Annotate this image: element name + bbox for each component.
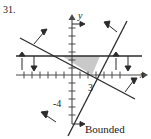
arrow-ascending-upper — [104, 21, 117, 32]
graph-canvas — [0, 0, 151, 139]
y-axis — [69, 14, 76, 124]
tick-label-y-negative-4: -4 — [53, 99, 61, 109]
inequality-graph-figure: 31. y x 3 -4 Bounded — [0, 0, 151, 139]
arrow-down-left-outer — [19, 52, 25, 70]
arrow-descending-lower — [125, 78, 137, 92]
axis-label-x: x — [140, 70, 144, 80]
x-axis — [16, 72, 148, 79]
caption-bounded: Bounded — [85, 124, 125, 135]
shaded-bounded-region — [62, 56, 100, 75]
boundary-line-descending — [20, 38, 135, 99]
tick-label-x-3: 3 — [88, 83, 93, 93]
boundary-line-ascending — [68, 21, 127, 136]
arrow-right-y-axis-top — [72, 22, 85, 27]
arrow-down-right-outer — [113, 52, 119, 70]
axis-label-y: y — [78, 11, 82, 21]
arrow-descending-upper — [34, 29, 47, 44]
arrow-ascending-lower — [41, 111, 56, 122]
arrow-down-right-inner — [125, 56, 131, 71]
arrow-down-left-inner — [31, 56, 37, 71]
problem-number: 31. — [3, 5, 16, 15]
